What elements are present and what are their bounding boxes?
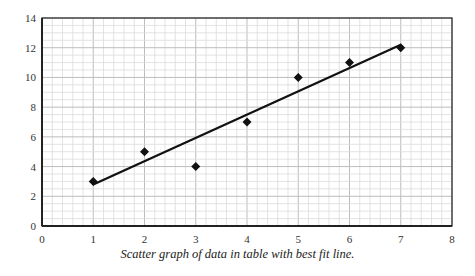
- y-tick-label: 2: [31, 190, 37, 202]
- x-tick-label: 6: [347, 233, 353, 245]
- y-tick-label: 6: [31, 131, 37, 143]
- diamond-marker-icon: [89, 177, 98, 186]
- y-tick-label: 12: [25, 42, 36, 54]
- x-tick-label: 1: [91, 233, 97, 245]
- x-tick-label: 5: [296, 233, 302, 245]
- diamond-marker-icon: [243, 118, 252, 127]
- y-tick-label: 4: [31, 161, 37, 173]
- scatter-chart: 01234567802468101214: [0, 0, 475, 276]
- diamond-marker-icon: [396, 43, 405, 52]
- x-tick-label: 0: [39, 233, 45, 245]
- diamond-marker-icon: [191, 162, 200, 171]
- x-tick-label: 8: [449, 233, 455, 245]
- x-tick-label: 7: [398, 233, 404, 245]
- diamond-marker-icon: [140, 147, 149, 156]
- x-tick-label: 4: [244, 233, 250, 245]
- y-tick-label: 14: [25, 12, 37, 24]
- x-tick-label: 3: [193, 233, 199, 245]
- y-tick-label: 0: [31, 220, 37, 232]
- y-tick-label: 10: [25, 71, 37, 83]
- y-tick-label: 8: [31, 101, 37, 113]
- chart-caption: Scatter graph of data in table with best…: [0, 247, 475, 262]
- x-tick-label: 2: [142, 233, 148, 245]
- diamond-marker-icon: [294, 73, 303, 82]
